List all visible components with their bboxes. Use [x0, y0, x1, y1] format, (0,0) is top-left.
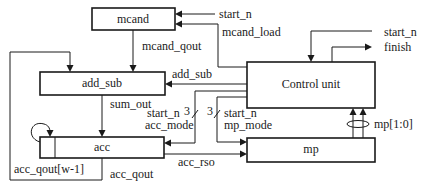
arrow-icon: [360, 108, 367, 115]
arrow-icon: [164, 140, 171, 147]
mp-label: mp: [303, 142, 318, 156]
bundle-ellipse: [347, 121, 369, 128]
acc-label: acc: [94, 140, 110, 154]
start-n-mcand-label: start_n: [219, 7, 252, 21]
wire-mcand-qout: mcand_qout: [130, 30, 202, 72]
mcand-load-label: mcand_load: [222, 25, 281, 39]
wire-acc-rso: acc_rso: [164, 151, 247, 170]
add-sub-block: add_sub: [40, 72, 165, 95]
arrow-icon: [165, 81, 172, 88]
wire-finish: finish: [332, 40, 411, 62]
arrow-icon: [130, 65, 137, 72]
acc-rso-label: acc_rso: [178, 155, 215, 169]
wire-sum-out: sum_out: [99, 95, 153, 137]
multiplier-block-diagram: mcand add_sub Control unit acc mp start_…: [0, 0, 421, 188]
acc-bus-width-label: 3: [184, 104, 190, 118]
finish-label: finish: [384, 40, 411, 54]
wire-mp-bits: mp[1:0]: [347, 108, 413, 138]
wire-start-n-to-mcand: start_n: [175, 7, 252, 21]
arrow-icon: [47, 130, 54, 137]
arrow-icon: [67, 65, 74, 72]
mcand-label: mcand: [117, 12, 149, 26]
arrow-icon: [350, 108, 357, 115]
arrow-icon: [175, 11, 182, 18]
start-n-ctrl-label: start_n: [384, 25, 417, 39]
arrow-icon: [308, 55, 315, 62]
arrow-icon: [175, 21, 182, 28]
arrow-icon: [99, 130, 106, 137]
acc-qout-label: acc_qout: [110, 167, 154, 181]
mcand-block: mcand: [92, 8, 175, 30]
arrow-icon: [240, 139, 247, 146]
arrow-icon: [365, 44, 372, 51]
control-unit-label: Control unit: [282, 77, 341, 91]
add-sub-signal-label: add_sub: [172, 67, 212, 81]
add-sub-label: add_sub: [82, 76, 122, 90]
sum-out-label: sum_out: [110, 97, 152, 111]
control-unit-block: Control unit: [247, 62, 375, 108]
acc-qout-msb-label: acc_qout[w-1]: [14, 162, 84, 176]
acc-mode-label: acc_mode: [145, 118, 194, 132]
mp-bits-label: mp[1:0]: [374, 117, 413, 131]
mp-block: mp: [247, 138, 375, 162]
arrow-icon: [240, 151, 247, 158]
acc-block: acc: [40, 137, 164, 158]
mp-bus-width-label: 3: [207, 104, 213, 118]
wire-add-sub-ctrl: add_sub: [165, 67, 247, 88]
mp-mode-label: mp_mode: [224, 118, 272, 132]
mcand-qout-label: mcand_qout: [142, 39, 202, 53]
